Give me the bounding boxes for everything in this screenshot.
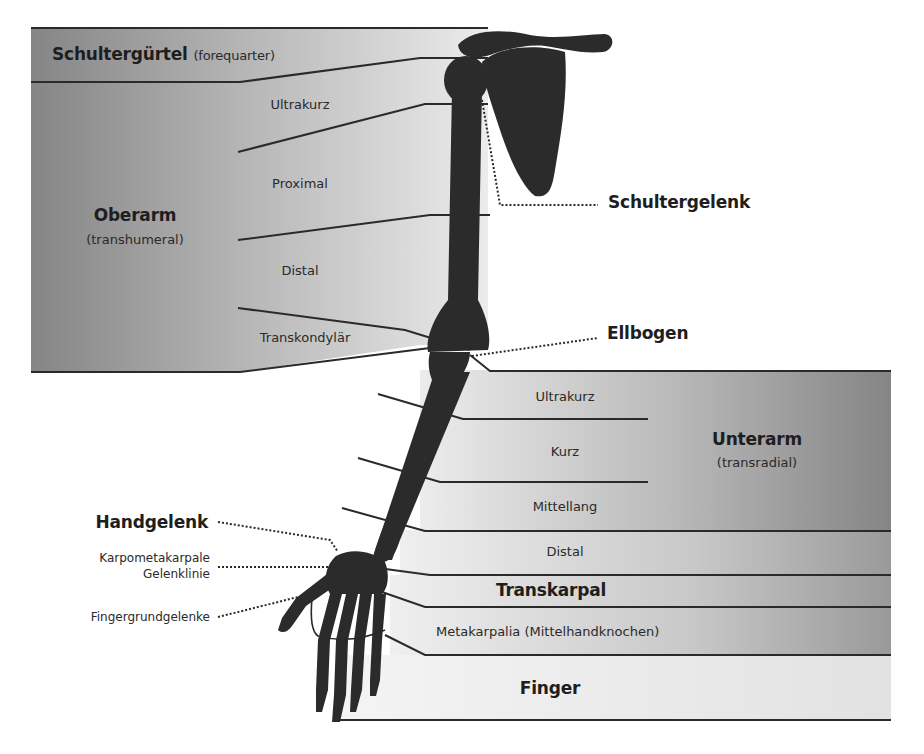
transcarpal-label: Transkarpal [496, 582, 606, 599]
upper-arm-band [31, 28, 490, 372]
cmc-line-label-1: Karpometakarpale [99, 552, 210, 564]
upper-arm-level-proximal: Proximal [272, 177, 328, 190]
forearm-level-kurz: Kurz [551, 445, 579, 458]
mcp-joints-label: Fingergrundgelenke [91, 611, 210, 623]
elbow-leader [472, 338, 598, 356]
elbow-label: Ellbogen [607, 325, 688, 342]
wrist-label: Handgelenk [96, 514, 208, 531]
upper-arm-level-distal: Distal [281, 264, 318, 277]
upper-arm-level-ultrakurz: Ultrakurz [270, 98, 329, 111]
forearm-level-ultrakurz: Ultrakurz [535, 390, 594, 403]
shoulder-joint-label: Schultergelenk [608, 194, 750, 211]
upper-arm-subtitle: (transhumeral) [86, 233, 184, 246]
metacarpal-label: Metakarpalia (Mittelhandknochen) [436, 625, 659, 638]
forearm-level-distal: Distal [546, 545, 583, 558]
cmc-line-label-2: Gelenklinie [143, 568, 210, 580]
wrist-leader [218, 522, 338, 552]
upper-arm-level-transcondylar: Transkondylär [260, 331, 350, 344]
scapula-bone [482, 47, 566, 196]
forearm-level-mittellang: Mittellang [533, 500, 598, 513]
shoulder-girdle-subtitle: (forequarter) [193, 48, 274, 63]
amputation-diagram [0, 0, 924, 754]
forearm-title: Unterarm [712, 431, 802, 448]
upper-arm-title: Oberarm [94, 207, 177, 224]
carpal-bones [326, 551, 388, 594]
finger-label: Finger [520, 680, 580, 697]
forearm-band [335, 355, 891, 720]
shoulder-girdle-label: Schultergürtel (forequarter) [52, 46, 275, 63]
forearm-subtitle: (transradial) [717, 456, 797, 469]
shoulder-girdle-title: Schultergürtel [52, 44, 188, 64]
